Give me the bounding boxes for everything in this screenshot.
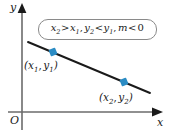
point-2-label: (x2,y2) (99, 92, 133, 106)
point-2-paren-close: ) (129, 91, 133, 103)
point-1-x-sub: 1 (34, 66, 38, 74)
point-2-x-sub: 2 (109, 98, 113, 106)
cond-value-zero: 0 (137, 22, 144, 33)
condition-callout-box: x2>x1,y2<y1,m<0 (38, 19, 157, 40)
condition-text: x2>x1,y2<y1,m<0 (51, 23, 145, 36)
point-1-marker (48, 47, 57, 56)
origin-label: O (10, 115, 19, 126)
point-1-paren-close: ) (54, 59, 58, 71)
y-axis-arrowhead (18, 3, 27, 13)
cond-op-gt: > (61, 22, 70, 33)
x-axis (8, 108, 163, 117)
cond-var-m: m (118, 22, 127, 33)
cond-op-lt-1: < (94, 22, 103, 33)
cond-sub-x2: 2 (56, 28, 60, 36)
x-axis-label: x (157, 117, 163, 128)
point-2-marker (119, 77, 128, 86)
line-graph-figure: y x O (x1,y1) (x2,y2) x2>x1,y2<y1,m<0 (0, 0, 173, 136)
y-axis-label: y (10, 2, 16, 13)
point-1-label: (x1,y1) (24, 60, 58, 74)
cond-op-lt-2: < (128, 22, 137, 33)
